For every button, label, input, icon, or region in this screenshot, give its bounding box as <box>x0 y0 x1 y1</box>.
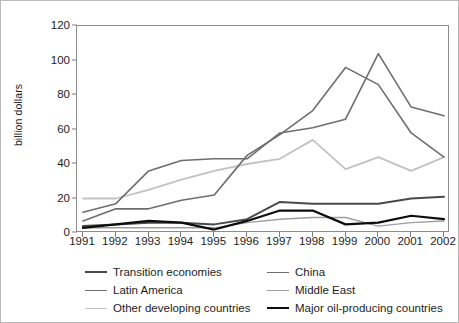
legend-label: Latin America <box>113 284 183 296</box>
y-tick-label: 100 <box>26 54 70 66</box>
legend-line-icon <box>85 308 107 309</box>
legend-label: Other developing countries <box>113 302 250 314</box>
legend-item[interactable]: Major oil-producing countries <box>267 302 447 314</box>
legend-label: Middle East <box>295 284 355 296</box>
x-axis-tick-labels: 1991199219931994199519961997199819992000… <box>76 235 449 251</box>
x-tick-label: 1991 <box>69 235 95 247</box>
legend-line-icon <box>85 271 107 273</box>
legend-item[interactable]: China <box>267 266 447 278</box>
legend-line-icon <box>267 272 289 273</box>
y-tick-label: 0 <box>26 226 70 238</box>
x-tick-label: 1994 <box>168 235 194 247</box>
plot-area-wrapper <box>76 25 449 232</box>
y-tick-label: 20 <box>26 192 70 204</box>
x-tick-label: 1992 <box>102 235 128 247</box>
series-line <box>83 140 444 199</box>
x-tick-label: 1999 <box>332 235 358 247</box>
series-line <box>83 54 444 213</box>
legend-line-icon <box>85 290 107 291</box>
series-line <box>83 211 444 230</box>
legend-line-icon <box>267 290 289 291</box>
x-tick-label: 2001 <box>397 235 423 247</box>
legend-item[interactable]: Middle East <box>267 284 447 296</box>
x-tick-label: 2000 <box>365 235 391 247</box>
legend-label: China <box>295 266 325 278</box>
y-axis-tick-labels: 120100806040200 <box>22 25 70 232</box>
series-lines <box>77 26 450 233</box>
y-tick-label: 120 <box>26 19 70 31</box>
chart-legend: Transition economiesChinaLatin AmericaMi… <box>85 263 447 319</box>
x-tick-label: 1998 <box>299 235 325 247</box>
x-tick-label: 1995 <box>200 235 226 247</box>
x-tick-label: 1996 <box>233 235 259 247</box>
legend-label: Transition economies <box>113 266 222 278</box>
legend-item[interactable]: Latin America <box>85 284 267 296</box>
legend-item[interactable]: Transition economies <box>85 266 267 278</box>
legend-item[interactable]: Other developing countries <box>85 302 267 314</box>
series-line <box>83 67 444 221</box>
legend-line-icon <box>267 307 289 309</box>
y-tick-label: 60 <box>26 123 70 135</box>
chart-figure: billion dollars 120100806040200 19911992… <box>0 0 459 323</box>
x-tick-label: 2002 <box>430 235 456 247</box>
y-tick-label: 40 <box>26 157 70 169</box>
legend-label: Major oil-producing countries <box>295 302 443 314</box>
plot-area <box>76 25 449 232</box>
y-tick-label: 80 <box>26 88 70 100</box>
x-tick-label: 1993 <box>135 235 161 247</box>
x-tick-label: 1997 <box>266 235 292 247</box>
